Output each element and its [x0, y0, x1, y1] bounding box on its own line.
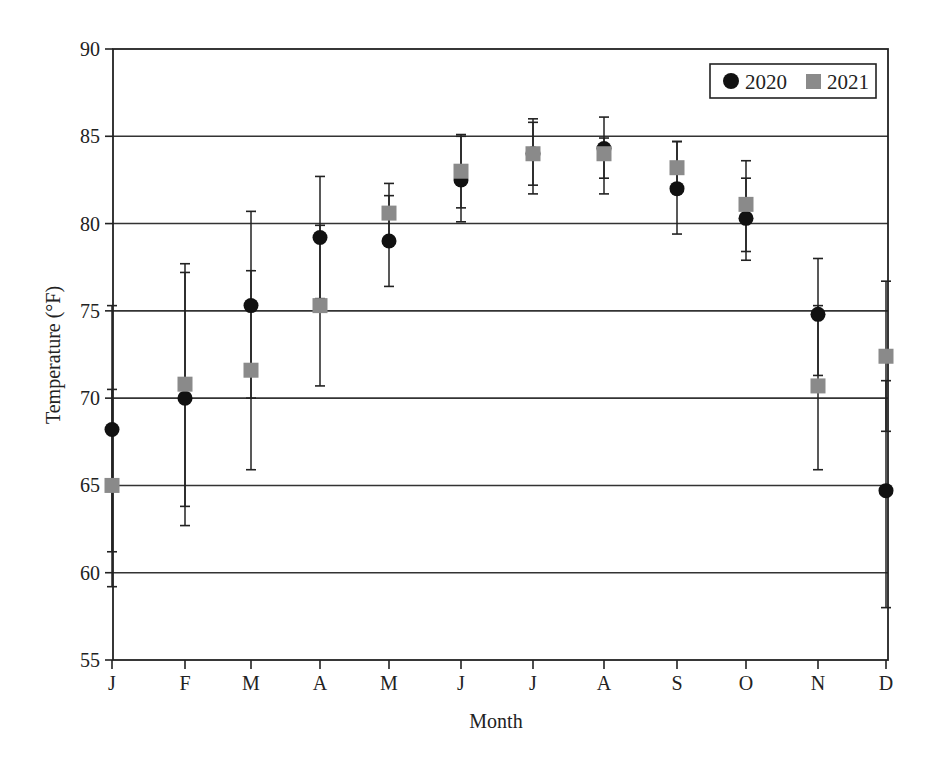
- point-2021: [526, 146, 541, 161]
- x-tick-label: M: [242, 672, 260, 694]
- data-markers: [105, 141, 894, 498]
- y-tick-label: 60: [80, 562, 100, 584]
- x-axis-title: Month: [469, 710, 522, 732]
- gridlines: [113, 136, 888, 572]
- x-tick-label: N: [811, 672, 825, 694]
- y-tick-label: 70: [80, 387, 100, 409]
- y-axis: 5560657075808590: [80, 38, 113, 671]
- x-tick-label: F: [179, 672, 190, 694]
- point-2020: [879, 483, 894, 498]
- temperature-chart: 5560657075808590 JFMAMJJASOND Temperatur…: [0, 0, 931, 772]
- point-2020: [811, 307, 826, 322]
- x-tick-label: J: [108, 672, 116, 694]
- point-2021: [178, 377, 193, 392]
- legend-2020-circle-icon: [723, 73, 739, 89]
- legend-label-2021: 2021: [827, 70, 869, 94]
- legend-2021-square-icon: [806, 74, 821, 89]
- point-2021: [597, 146, 612, 161]
- legend-label-2020: 2020: [745, 70, 787, 94]
- y-tick-label: 65: [80, 474, 100, 496]
- point-2020: [244, 298, 259, 313]
- point-2020: [105, 422, 120, 437]
- y-axis-title: Temperature (°F): [42, 286, 65, 424]
- point-2020: [670, 181, 685, 196]
- error-bars: [107, 117, 891, 608]
- x-tick-label: M: [380, 672, 398, 694]
- point-2021: [105, 478, 120, 493]
- legend: 2020 2021: [710, 64, 876, 98]
- x-axis: JFMAMJJASOND: [108, 660, 893, 694]
- point-2020: [178, 391, 193, 406]
- plot-frame: [113, 49, 888, 660]
- point-2020: [739, 211, 754, 226]
- y-tick-label: 90: [80, 38, 100, 60]
- y-tick-label: 85: [80, 125, 100, 147]
- y-tick-label: 80: [80, 213, 100, 235]
- x-tick-label: D: [879, 672, 893, 694]
- y-tick-label: 75: [80, 300, 100, 322]
- point-2021: [244, 363, 259, 378]
- x-tick-label: O: [739, 672, 753, 694]
- point-2021: [739, 197, 754, 212]
- point-2021: [811, 378, 826, 393]
- point-2020: [313, 230, 328, 245]
- point-2021: [313, 298, 328, 313]
- x-tick-label: A: [597, 672, 612, 694]
- y-tick-label: 55: [80, 649, 100, 671]
- point-2021: [454, 164, 469, 179]
- x-tick-label: S: [671, 672, 682, 694]
- x-tick-label: J: [457, 672, 465, 694]
- point-2021: [670, 160, 685, 175]
- point-2020: [382, 234, 397, 249]
- x-tick-label: J: [529, 672, 537, 694]
- point-2021: [382, 206, 397, 221]
- point-2021: [879, 349, 894, 364]
- x-tick-label: A: [313, 672, 328, 694]
